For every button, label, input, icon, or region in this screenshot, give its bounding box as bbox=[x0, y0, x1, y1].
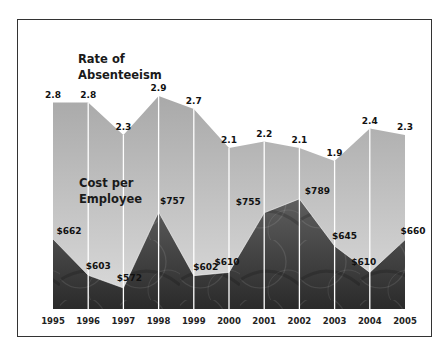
absenteeism-label-1999: 2.7 bbox=[186, 96, 202, 106]
x-tick-1995: 1995 bbox=[41, 316, 65, 326]
cost-label-1996: $603 bbox=[86, 261, 111, 271]
x-tick-1999: 1999 bbox=[182, 316, 206, 326]
absenteeism-label-2002: 2.1 bbox=[291, 135, 307, 145]
x-tick-2005: 2005 bbox=[393, 316, 417, 326]
series-title-cost-line1: Cost per bbox=[79, 176, 134, 190]
cost-label-1998: $757 bbox=[160, 196, 185, 206]
series-title-cost-line2: Employee bbox=[79, 192, 142, 206]
absenteeism-label-2003: 1.9 bbox=[327, 148, 343, 158]
cost-label-2000: $610 bbox=[214, 257, 239, 267]
cost-label-2001: $755 bbox=[236, 197, 261, 207]
cost-label-2005: $660 bbox=[400, 226, 425, 236]
cost-label-1995: $662 bbox=[56, 226, 81, 236]
x-axis-ticks: 1995199619971998199920002001200220032004… bbox=[41, 316, 417, 326]
series-title-absenteeism-line1: Rate of bbox=[78, 52, 126, 66]
absenteeism-label-1998: 2.9 bbox=[151, 83, 167, 93]
x-tick-2002: 2002 bbox=[288, 316, 312, 326]
x-tick-2003: 2003 bbox=[323, 316, 347, 326]
x-tick-1996: 1996 bbox=[76, 316, 100, 326]
x-tick-1998: 1998 bbox=[147, 316, 171, 326]
cost-label-2002: $789 bbox=[305, 186, 330, 196]
absenteeism-label-2001: 2.2 bbox=[256, 129, 272, 139]
x-tick-1997: 1997 bbox=[112, 316, 136, 326]
cost-label-2003: $645 bbox=[332, 231, 357, 241]
cost-label-2004: $610 bbox=[351, 257, 376, 267]
absenteeism-label-1995: 2.8 bbox=[45, 90, 61, 100]
absenteeism-label-2005: 2.3 bbox=[397, 122, 413, 132]
x-tick-2001: 2001 bbox=[252, 316, 276, 326]
absenteeism-label-2000: 2.1 bbox=[221, 135, 237, 145]
series-title-absenteeism-line2: Absenteeism bbox=[78, 68, 162, 82]
chart-svg: 2.82.82.32.92.72.12.22.11.92.42.3 $662$6… bbox=[0, 0, 445, 351]
x-tick-2004: 2004 bbox=[358, 316, 382, 326]
absenteeism-label-1996: 2.8 bbox=[80, 90, 96, 100]
cost-label-1997: $572 bbox=[117, 273, 142, 283]
x-tick-2000: 2000 bbox=[217, 316, 241, 326]
absenteeism-label-1997: 2.3 bbox=[115, 122, 131, 132]
absenteeism-label-2004: 2.4 bbox=[362, 116, 378, 126]
